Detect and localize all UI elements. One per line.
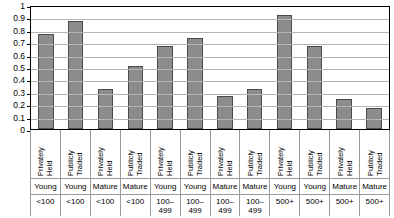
x-axis-ownership-label: PubliclyTraded (300, 130, 329, 178)
y-axis-tickmark (27, 7, 31, 8)
x-axis-ownership-label: PrivatelyHeld (151, 130, 180, 178)
x-axis-ownership-label: PubliclyTraded (61, 130, 90, 178)
bar[interactable] (187, 38, 203, 129)
x-axis-ownership-label: PubliclyTraded (121, 130, 150, 178)
y-axis-tickmark (27, 57, 31, 58)
gridline (31, 32, 389, 33)
x-axis-category-column: PubliclyTradedYoung500+ (299, 130, 329, 216)
x-axis-ownership-text: PrivatelyHeld (156, 147, 174, 176)
y-axis-tick-label: 0.6 (13, 51, 25, 60)
x-axis-ownership-label: PubliclyTraded (181, 130, 210, 178)
x-axis-ownership-label: PubliclyTraded (240, 130, 269, 178)
x-axis-age-label: Mature (211, 178, 240, 194)
x-axis-age-label: Young (151, 178, 180, 194)
x-axis-ownership-text: PrivatelyHeld (36, 147, 54, 176)
bar-slot (150, 7, 180, 129)
y-axis-tick-label: 0.1 (13, 113, 25, 122)
x-axis-ownership-text: PubliclyTraded (306, 150, 324, 176)
x-axis-ownership-text: PubliclyTraded (126, 150, 144, 176)
gridline (31, 81, 389, 82)
bar[interactable] (157, 46, 173, 129)
y-axis: 10.90.80.70.60.50.40.30.20.10 (0, 6, 28, 130)
x-axis-ownership-text: PrivatelyHeld (216, 147, 234, 176)
x-axis-ownership-text: PrivatelyHeld (276, 147, 294, 176)
bar-slot (61, 7, 91, 129)
x-axis-category-column: PubliclyTradedMature100– 499 (239, 130, 269, 216)
x-axis-ownership-text: PubliclyTraded (366, 150, 384, 176)
x-axis-age-label: Mature (91, 178, 120, 194)
bar-slot (270, 7, 300, 129)
y-axis-tickmark (27, 106, 31, 107)
gridline (31, 57, 389, 58)
x-axis-age-label: Young (61, 178, 90, 194)
x-axis-category-column: PubliclyTradedMature<100 (120, 130, 150, 216)
bar-slot (210, 7, 240, 129)
gridline (31, 106, 389, 107)
x-axis-ownership-text: PubliclyTraded (66, 150, 84, 176)
x-axis-size-label: <100 (31, 194, 60, 216)
x-axis-category-table: PrivatelyHeldYoung<100PubliclyTradedYoun… (30, 130, 390, 216)
bar[interactable] (68, 21, 84, 129)
x-axis-size-label: 100– 499 (181, 194, 210, 216)
x-axis-ownership-label: PrivatelyHeld (270, 130, 299, 178)
y-axis-tick-label: 0.9 (13, 14, 25, 23)
bar-slot (299, 7, 329, 129)
x-axis-age-label: Young (181, 178, 210, 194)
x-axis-size-label: 100– 499 (211, 194, 240, 216)
x-axis-size-label: 100– 499 (151, 194, 180, 216)
x-axis-ownership-label: PrivatelyHeld (330, 130, 359, 178)
x-axis-category-column: PrivatelyHeldYoung500+ (269, 130, 299, 216)
x-axis-age-label: Mature (360, 178, 389, 194)
x-axis-age-label: Young (300, 178, 329, 194)
x-axis-category-column: PrivatelyHeldMature500+ (329, 130, 359, 216)
x-axis-category-column: PrivatelyHeldMature<100 (90, 130, 120, 216)
bar[interactable] (247, 89, 263, 129)
x-axis-category-column: PubliclyTradedYoung100– 499 (180, 130, 210, 216)
bar[interactable] (336, 99, 352, 129)
gridline (31, 19, 389, 20)
x-axis-ownership-text: PrivatelyHeld (96, 147, 114, 176)
x-axis-ownership-label: PubliclyTraded (360, 130, 389, 178)
bar[interactable] (98, 89, 114, 129)
x-axis-age-label: Young (31, 178, 60, 194)
x-axis-age-label: Young (270, 178, 299, 194)
x-axis-size-label: <100 (91, 194, 120, 216)
bar-chart: 10.90.80.70.60.50.40.30.20.10 PrivatelyH… (0, 0, 394, 218)
y-axis-tick-label: 0.4 (13, 76, 25, 85)
x-axis-ownership-text: PubliclyTraded (186, 150, 204, 176)
gridline (31, 94, 389, 95)
x-axis-age-label: Mature (330, 178, 359, 194)
y-axis-tickmark (27, 44, 31, 45)
y-axis-tick-label: 0.3 (13, 89, 25, 98)
x-axis-category-column: PrivatelyHeldMature100– 499 (210, 130, 240, 216)
y-axis-tick-label: 0.2 (13, 101, 25, 110)
x-axis-ownership-label: PrivatelyHeld (91, 130, 120, 178)
y-axis-tick-label: 0 (20, 126, 25, 135)
x-axis-size-label: 500+ (300, 194, 329, 216)
bar-slot (359, 7, 389, 129)
x-axis-age-label: Mature (240, 178, 269, 194)
x-axis-size-label: <100 (61, 194, 90, 216)
y-axis-tickmark (27, 94, 31, 95)
x-axis-category-column: PubliclyTradedMature500+ (359, 130, 390, 216)
bar[interactable] (217, 96, 233, 129)
x-axis-ownership-text: PubliclyTraded (246, 150, 264, 176)
plot-wrapper: 10.90.80.70.60.50.40.30.20.10 PrivatelyH… (0, 0, 394, 218)
x-axis-ownership-label: PrivatelyHeld (31, 130, 60, 178)
y-axis-tick-label: 0.5 (13, 64, 25, 73)
x-axis-ownership-label: PrivatelyHeld (211, 130, 240, 178)
bar-slot (120, 7, 150, 129)
y-axis-tickmark (27, 119, 31, 120)
y-axis-tick-label: 0.8 (13, 27, 25, 36)
gridline (31, 44, 389, 45)
x-axis-category-column: PrivatelyHeldYoung100– 499 (150, 130, 180, 216)
x-axis-size-label: 500+ (270, 194, 299, 216)
x-axis-size-label: 100– 499 (240, 194, 269, 216)
bar-slot (180, 7, 210, 129)
bar[interactable] (307, 46, 323, 129)
y-axis-tickmark (27, 81, 31, 82)
gridline (31, 7, 389, 8)
bar-slot (329, 7, 359, 129)
x-axis-category-column: PubliclyTradedYoung<100 (60, 130, 90, 216)
y-axis-tickmark (27, 19, 31, 20)
